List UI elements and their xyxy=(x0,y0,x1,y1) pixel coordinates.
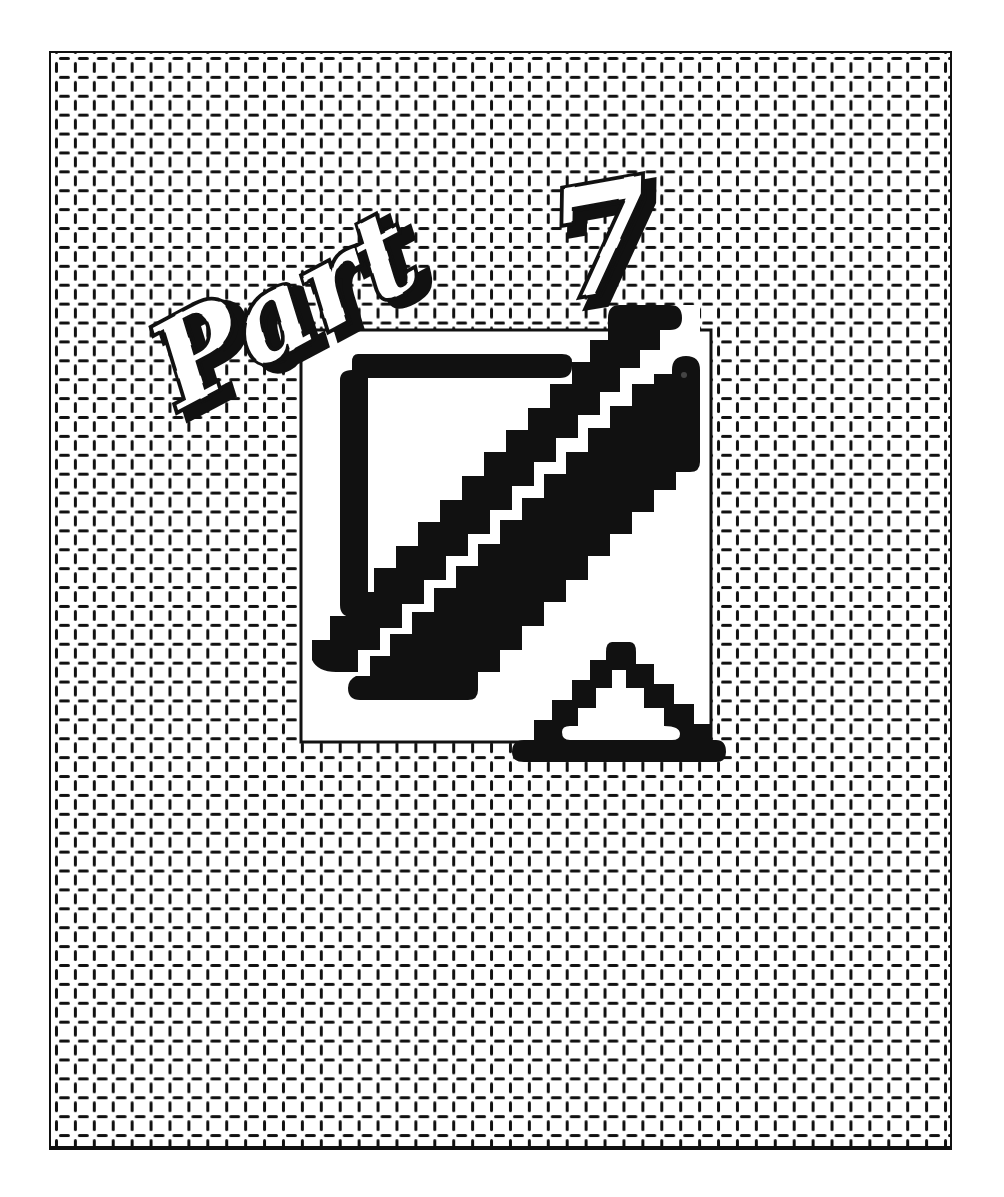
logo-emblem-icon xyxy=(0,0,1004,1197)
chapter-divider-page: Part 7 Part Part Part 7 7 7 xyxy=(0,0,1004,1197)
